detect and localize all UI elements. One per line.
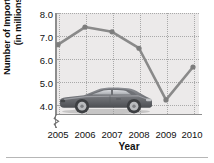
y-tick-5: 5.0 xyxy=(29,78,53,89)
x-axis-line xyxy=(56,114,202,115)
footer-divider xyxy=(6,157,208,158)
data-point-2010 xyxy=(190,64,195,69)
y-tick-7: 7.0 xyxy=(29,32,53,43)
data-point-2008 xyxy=(136,46,141,51)
data-point-2006 xyxy=(82,24,87,29)
y-axis-line xyxy=(55,13,56,128)
y-tick-6: 6.0 xyxy=(29,55,53,66)
y-axis-title-line2: (in millions) xyxy=(12,0,23,45)
x-tick-2008: 2008 xyxy=(124,129,154,140)
x-tick-2007: 2007 xyxy=(97,129,127,140)
x-tick-2006: 2006 xyxy=(70,129,100,140)
data-point-2007 xyxy=(109,29,114,34)
line-chart-figure: Number of Imported Cars(in millions) xyxy=(0,0,214,163)
data-point-2009 xyxy=(163,97,168,102)
y-axis-title-line1: Number of Imported Cars xyxy=(1,0,12,75)
y-tick-8: 8.0 xyxy=(29,9,53,20)
x-tick-2010: 2010 xyxy=(177,129,207,140)
y-tick-4: 4.0 xyxy=(29,101,53,112)
series-polyline xyxy=(58,27,193,100)
y-axis-title: Number of Imported Cars(in millions) xyxy=(1,0,25,85)
x-tick-2005: 2005 xyxy=(43,129,73,140)
x-axis-title: Year xyxy=(56,141,202,152)
data-series-line xyxy=(56,13,198,114)
data-point-2005 xyxy=(55,42,60,47)
